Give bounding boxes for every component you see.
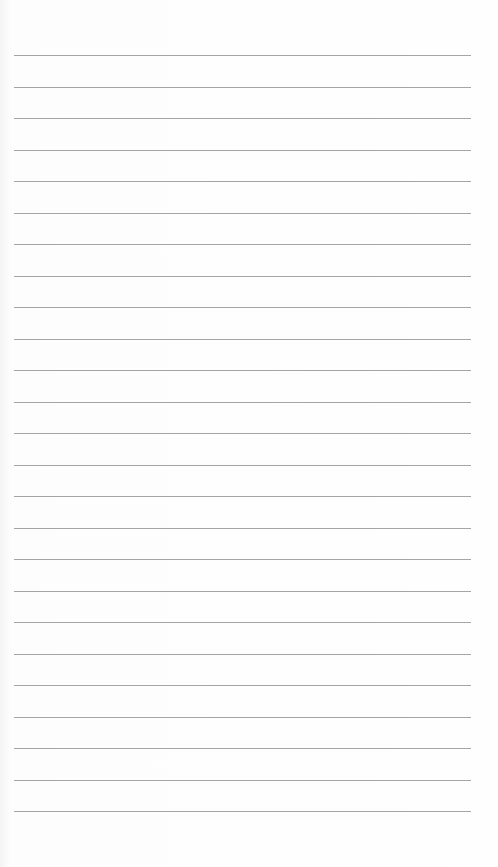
ruled-line — [14, 811, 471, 812]
ruled-line — [14, 276, 471, 277]
ruled-line — [14, 748, 471, 749]
ruled-line — [14, 213, 471, 214]
lined-paper-page — [0, 0, 498, 867]
ruled-line — [14, 118, 471, 119]
ruled-line — [14, 465, 471, 466]
ruled-line — [14, 402, 471, 403]
ruled-line — [14, 307, 471, 308]
ruled-line — [14, 528, 471, 529]
ruled-line — [14, 622, 471, 623]
ruled-line — [14, 339, 471, 340]
ruled-line — [14, 181, 471, 182]
ruled-line — [14, 87, 471, 88]
ruled-line — [14, 591, 471, 592]
ruled-line — [14, 244, 471, 245]
ruled-line — [14, 717, 471, 718]
ruled-line — [14, 496, 471, 497]
ruled-line — [14, 370, 471, 371]
ruled-line — [14, 433, 471, 434]
ruled-line — [14, 654, 471, 655]
ruled-line — [14, 559, 471, 560]
ruled-line — [14, 150, 471, 151]
ruled-line — [14, 780, 471, 781]
ruled-line — [14, 55, 471, 56]
ruled-line — [14, 685, 471, 686]
